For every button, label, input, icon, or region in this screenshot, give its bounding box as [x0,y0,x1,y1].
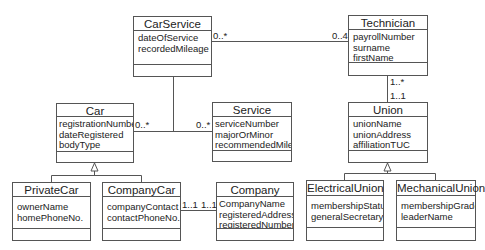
multiplicity-label: 1..1 [201,200,217,210]
class-attributes: serviceNumber majorOrMinor recommendedMi… [213,117,291,151]
attribute: registeredNumber [219,220,290,229]
attribute: registrationNumber [59,119,130,130]
multiplicity-label: 0..4 [332,31,348,41]
class-attributes: CompanyName registeredAddress registered… [217,197,293,229]
class-attributes: membershipStatus generalSecretary [307,196,383,228]
class-attributes: unionName unionAddress affiliationTUC [349,117,427,151]
attribute: homePhoneNo. [17,213,87,224]
class-attributes: ownerName homePhoneNo. [13,197,90,229]
attribute: recommendedMiles [215,140,288,151]
class-companycar[interactable]: CompanyCar companyContact contactPhoneNo… [102,182,181,241]
class-car[interactable]: Car registrationNumber dateRegistered bo… [56,103,134,163]
attribute: CompanyName [219,199,290,210]
generalization-arrow-union [384,163,391,171]
class-name: Service [213,103,291,117]
class-name: ElectricalUnion [307,181,383,196]
class-attributes: companyContact contactPhoneNo. [103,197,180,229]
attribute: unionName [353,119,424,130]
class-mechanicalunion[interactable]: MechanicalUnion membershipGrade leaderNa… [396,180,476,241]
attribute: dateOfService [138,33,208,44]
class-attributes: registrationNumber dateRegistered bodyTy… [57,117,133,152]
class-privatecar[interactable]: PrivateCar ownerName homePhoneNo. [12,182,91,241]
attribute: membershipStatus [311,201,380,212]
attribute: ownerName [17,202,87,213]
attribute: bodyType [59,140,130,151]
generalization-arrow-car [91,163,98,171]
attribute: companyContact [107,202,177,213]
class-attributes: payrollNumber surname firstName [349,30,427,63]
class-name: CarService [134,17,211,31]
multiplicity-label: 0..* [213,31,227,41]
multiplicity-label: 0..* [196,120,210,130]
class-name: Car [57,104,133,117]
attribute: recordedMileage [138,44,208,55]
class-name: Company [217,183,293,197]
attribute: leaderName [401,212,472,223]
class-union[interactable]: Union unionName unionAddress affiliation… [348,102,428,163]
attribute: contactPhoneNo. [107,213,177,224]
class-name: MechanicalUnion [397,181,475,196]
class-service[interactable]: Service serviceNumber majorOrMinor recom… [212,102,292,162]
attribute: generalSecretary [311,212,380,223]
attribute: membershipGrade [401,201,472,212]
multiplicity-label: 1..1 [182,200,198,210]
class-technician[interactable]: Technician payrollNumber surname firstNa… [348,15,428,76]
class-electricalunion[interactable]: ElectricalUnion membershipStatus general… [306,180,384,241]
multiplicity-label: 1..* [390,77,404,87]
class-attributes: membershipGrade leaderName [397,196,475,228]
multiplicity-label: 0..* [135,120,149,130]
class-name: Technician [349,16,427,30]
attribute: serviceNumber [215,119,288,130]
attribute: firstName [353,53,424,63]
class-carservice[interactable]: CarService dateOfService recordedMileage [133,16,212,77]
class-name: Union [349,103,427,117]
attribute: payrollNumber [353,32,424,43]
multiplicity-label: 1..1 [390,91,406,101]
class-name: CompanyCar [103,183,180,197]
attribute: affiliationTUC [353,140,424,151]
class-attributes: dateOfService recordedMileage [134,31,211,65]
class-name: PrivateCar [13,183,90,197]
class-company[interactable]: Company CompanyName registeredAddress re… [216,182,294,241]
